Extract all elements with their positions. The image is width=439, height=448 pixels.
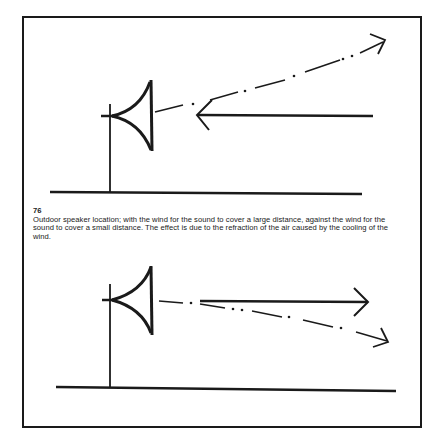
sound-path-up [155, 34, 385, 112]
ground-line [56, 387, 396, 391]
top-diagram [50, 34, 385, 194]
caption-text: Outdoor speaker location; with the wind … [33, 216, 403, 242]
speaker-icon [101, 80, 152, 151]
ground-line [50, 192, 362, 194]
sound-path-down [159, 301, 388, 347]
bottom-diagram [56, 266, 396, 391]
wind-arrow-right-icon [200, 288, 368, 316]
wind-arrow-left-icon [197, 100, 373, 130]
figure-caption: 76 Outdoor speaker location; with the wi… [33, 207, 403, 241]
